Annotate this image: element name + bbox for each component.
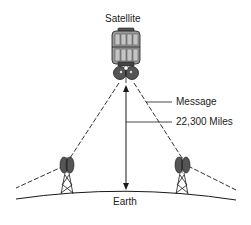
message-label: Message [176, 97, 217, 107]
distance-label: 22,300 Miles [176, 117, 233, 127]
earth-label: Earth [113, 197, 137, 207]
distance-arrow [123, 85, 129, 190]
satellite-icon [112, 28, 140, 83]
dish-tower-icon [60, 157, 74, 194]
dish-tower-icon [175, 157, 190, 194]
satellite-diagram [0, 0, 251, 225]
satellite-label: Satellite [105, 14, 141, 24]
